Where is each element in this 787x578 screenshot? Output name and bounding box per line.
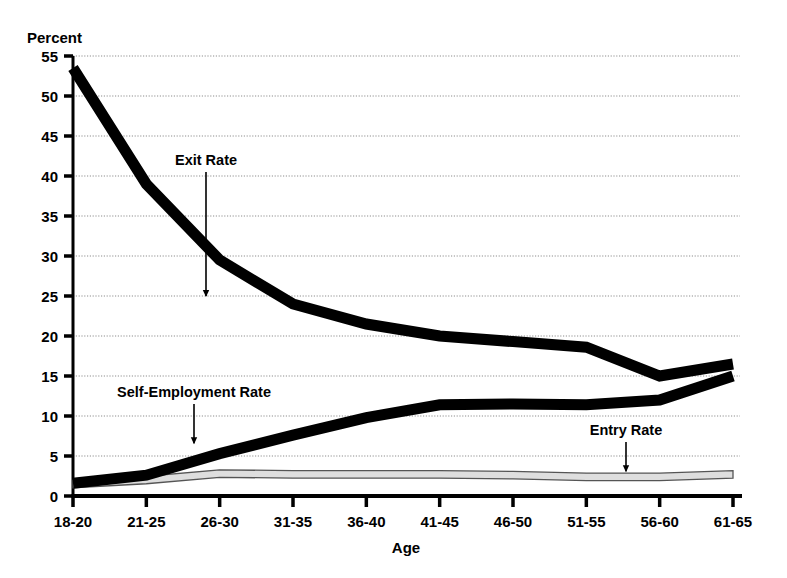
x-tick-label: 61-65 [714,513,752,530]
annotation-label-entry-rate: Entry Rate [590,422,663,438]
y-tick-label: 0 [50,488,58,505]
y-tick-label: 25 [41,288,58,305]
y-tick-label: 5 [50,448,58,465]
x-tick-label: 46-50 [494,513,532,530]
x-tick-label: 31-35 [274,513,312,530]
x-tick-label: 41-45 [420,513,458,530]
x-tick-label: 36-40 [347,513,385,530]
annotation-label-exit-rate: Exit Rate [175,152,237,168]
chart-background [0,0,787,578]
chart-container: 0510152025303540455055 18-2021-2526-3031… [0,0,787,578]
y-tick-label: 35 [41,208,58,225]
line-chart: 0510152025303540455055 18-2021-2526-3031… [0,0,787,578]
y-tick-label: 10 [41,408,58,425]
x-tick-label: 56-60 [640,513,678,530]
y-tick-label: 20 [41,328,58,345]
x-axis-title: Age [392,539,420,556]
y-tick-label: 40 [41,168,58,185]
x-tick-label: 26-30 [200,513,238,530]
y-tick-label: 50 [41,88,58,105]
annotation-label-self-employment-rate: Self-Employment Rate [117,384,271,400]
x-tick-label: 21-25 [127,513,165,530]
y-tick-label: 15 [41,368,58,385]
x-tick-label: 18-20 [54,513,92,530]
y-tick-label: 30 [41,248,58,265]
y-axis-unit-label: Percent [27,29,82,46]
y-tick-label: 55 [41,48,58,65]
y-tick-label: 45 [41,128,58,145]
x-tick-label: 51-55 [567,513,605,530]
